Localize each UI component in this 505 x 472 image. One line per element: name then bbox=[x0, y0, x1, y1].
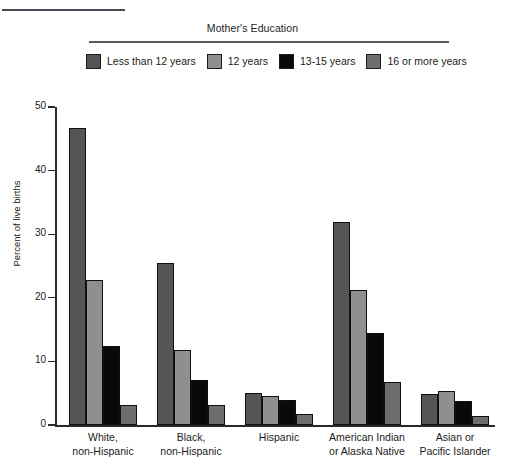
legend-item: 13-15 years bbox=[279, 54, 355, 69]
legend-item: 16 or more years bbox=[366, 54, 466, 69]
bar-group bbox=[319, 107, 407, 425]
x-axis-label-line: White, bbox=[63, 431, 143, 445]
y-axis-tick bbox=[48, 234, 55, 235]
bar bbox=[279, 400, 296, 425]
bar-group bbox=[407, 107, 495, 425]
legend-item-label: 16 or more years bbox=[387, 55, 466, 67]
legend-item-label: 13-15 years bbox=[300, 55, 355, 67]
y-axis-tick bbox=[48, 297, 55, 298]
bar bbox=[472, 416, 489, 425]
x-axis-label: White,non-Hispanic bbox=[55, 431, 143, 458]
bar bbox=[157, 263, 174, 425]
bar bbox=[262, 396, 279, 425]
bar-group bbox=[55, 107, 143, 425]
legend-item-label: Less than 12 years bbox=[107, 55, 196, 67]
y-axis-tick bbox=[48, 361, 55, 362]
bar bbox=[174, 350, 191, 425]
x-axis-label-line: Black, bbox=[151, 431, 231, 445]
x-axis-label-line: or Alaska Native bbox=[327, 445, 407, 459]
x-axis-line bbox=[55, 425, 495, 427]
bar bbox=[455, 401, 472, 425]
bar bbox=[350, 290, 367, 425]
x-axis-label: Black,non-Hispanic bbox=[143, 431, 231, 458]
legend-item-label: 12 years bbox=[228, 55, 268, 67]
bar bbox=[86, 280, 103, 425]
y-axis-ticks: 01020304050 bbox=[0, 0, 46, 472]
bar bbox=[421, 394, 438, 425]
bar bbox=[384, 382, 401, 425]
y-axis-title: Percent of live births bbox=[11, 164, 22, 284]
bar bbox=[245, 393, 262, 425]
bar bbox=[333, 222, 350, 425]
x-axis-label-line: non-Hispanic bbox=[151, 445, 231, 459]
bar bbox=[296, 414, 313, 425]
legend-swatch-icon bbox=[279, 54, 294, 69]
y-axis-tick-label: 0 bbox=[4, 418, 46, 429]
x-axis-label-line: Pacific Islander bbox=[415, 445, 495, 459]
x-axis-label-line: non-Hispanic bbox=[63, 445, 143, 459]
bar-group bbox=[143, 107, 231, 425]
bar bbox=[191, 380, 208, 425]
bar bbox=[103, 346, 120, 425]
legend-divider bbox=[89, 41, 449, 43]
y-axis-tick-label: 20 bbox=[4, 291, 46, 302]
x-axis-label-line: Asian or bbox=[415, 431, 495, 445]
legend-title: Mother's Education bbox=[0, 22, 505, 34]
y-axis-tick bbox=[48, 424, 55, 425]
bar bbox=[438, 391, 455, 425]
x-axis-label: American Indianor Alaska Native bbox=[319, 431, 407, 458]
chart-legend: Less than 12 years12 years13-15 years16 … bbox=[86, 52, 466, 70]
legend-item: Less than 12 years bbox=[86, 54, 196, 69]
y-axis-tick bbox=[48, 106, 55, 107]
legend-swatch-icon bbox=[207, 54, 222, 69]
bar-plot-area bbox=[55, 107, 495, 425]
bar bbox=[208, 405, 225, 425]
y-axis-tick bbox=[48, 170, 55, 171]
bar bbox=[367, 333, 384, 425]
y-axis-tick-label: 50 bbox=[4, 100, 46, 111]
x-axis-label: Asian orPacific Islander bbox=[407, 431, 495, 458]
x-axis-label-line: American Indian bbox=[327, 431, 407, 445]
legend-item: 12 years bbox=[207, 54, 268, 69]
x-axis-labels: White,non-HispanicBlack,non-HispanicHisp… bbox=[55, 431, 495, 458]
bar bbox=[69, 128, 86, 425]
legend-swatch-icon bbox=[366, 54, 381, 69]
x-axis-label-line: Hispanic bbox=[239, 431, 319, 445]
x-axis-label: Hispanic bbox=[231, 431, 319, 458]
y-axis-tick-label: 10 bbox=[4, 354, 46, 365]
bar bbox=[120, 405, 137, 425]
legend-swatch-icon bbox=[86, 54, 101, 69]
bar-group bbox=[231, 107, 319, 425]
